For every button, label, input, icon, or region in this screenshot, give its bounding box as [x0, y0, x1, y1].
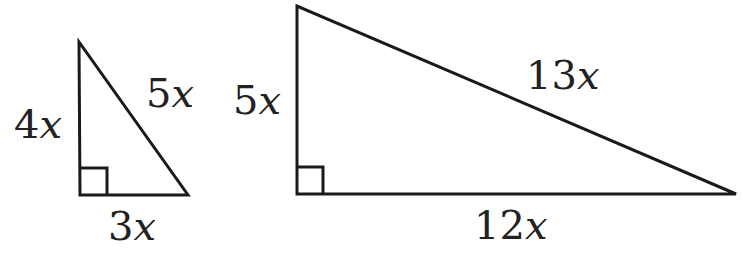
large-triangle-outline — [297, 6, 736, 194]
variable: x — [39, 101, 62, 147]
coef: 3 — [108, 203, 133, 249]
large-right-angle-marker — [297, 167, 323, 194]
small-vertical-leg-label: 4x — [14, 104, 62, 144]
coef: 5 — [146, 70, 171, 116]
small-hypotenuse-label: 5x — [146, 73, 194, 113]
variable: x — [525, 202, 548, 248]
small-triangle — [79, 42, 188, 195]
variable: x — [133, 203, 156, 249]
coef: 5 — [233, 77, 258, 123]
small-base-label: 3x — [108, 206, 156, 246]
coef: 4 — [14, 101, 39, 147]
variable: x — [171, 70, 194, 116]
coef: 12 — [474, 202, 525, 248]
small-triangle-outline — [79, 42, 188, 195]
variable: x — [258, 77, 281, 123]
small-right-angle-marker — [80, 168, 107, 195]
large-triangle — [297, 6, 736, 194]
variable: x — [577, 52, 600, 98]
large-base-label: 12x — [474, 205, 547, 245]
coef: 13 — [526, 52, 577, 98]
large-vertical-leg-label: 5x — [233, 80, 281, 120]
large-hypotenuse-label: 13x — [526, 55, 599, 95]
